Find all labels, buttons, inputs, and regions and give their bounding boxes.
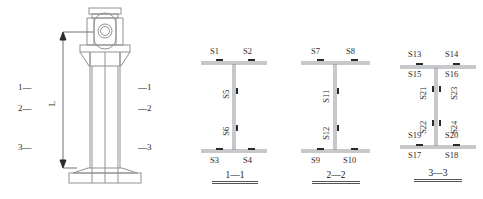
section-2-2-caption: 2—2 <box>312 170 360 184</box>
section-2-2: S7 S8 S9 S10 S11 S12 2—2 <box>298 0 383 199</box>
sensor-label-s7: S7 <box>311 47 320 56</box>
tick-label: 3 <box>147 142 152 152</box>
tick-label: 1 <box>147 82 152 92</box>
figure-canvas: L 1— 2— 3— —1 —2 —3 S1 S2 S3 <box>0 0 483 199</box>
gauge-mark-s13-s15 <box>416 63 423 65</box>
sensor-label-s19: S19 <box>408 131 421 140</box>
gauge-mark-s24 <box>439 120 441 126</box>
elevation-tick-right-2: —2 <box>138 103 152 113</box>
pier-shaft <box>90 52 120 168</box>
caption-rule <box>414 179 462 182</box>
gauge-mark-s10 <box>351 148 358 150</box>
sensor-label-s10: S10 <box>343 156 356 165</box>
sensor-label-s14: S14 <box>445 50 458 59</box>
caption-text: 3—3 <box>429 168 448 178</box>
gauge-mark-s22 <box>432 120 434 126</box>
gauge-mark-s14-s16 <box>453 63 460 65</box>
section-3-3-caption: 3—3 <box>414 168 462 182</box>
section-1-1: S1 S2 S3 S4 S5 S6 1—1 <box>198 0 278 199</box>
tick-dash: — <box>23 82 32 92</box>
gauge-mark-s7 <box>317 59 324 61</box>
sensor-label-s13: S13 <box>408 50 421 59</box>
section-3-3: S13 S14 S15 S16 S21 S22 S23 S24 S19 S20 … <box>396 0 483 199</box>
sensor-label-s12: S12 <box>322 127 331 140</box>
elevation-tick-left-2: 2— <box>18 103 32 113</box>
tick-dash: — <box>23 103 32 113</box>
tick-label: 2 <box>147 103 152 113</box>
tick-dash: — <box>138 142 147 152</box>
elevation-tick-right-1: —1 <box>138 82 152 92</box>
sensor-label-s5: S5 <box>222 90 231 99</box>
sensor-label-s20: S20 <box>445 131 458 140</box>
elevation-tick-left-1: 1— <box>18 82 32 92</box>
gauge-mark-s4 <box>248 148 255 150</box>
sensor-label-s21: S21 <box>419 87 428 100</box>
sensor-label-s15: S15 <box>408 70 421 79</box>
sensor-label-s6: S6 <box>222 127 231 136</box>
top-bearing-assembly <box>87 8 123 49</box>
caption-rule <box>312 181 360 184</box>
sensor-label-s17: S17 <box>408 151 421 160</box>
gauge-mark-s11 <box>337 88 339 94</box>
sensor-label-s4: S4 <box>243 156 252 165</box>
gauge-mark-s5 <box>236 88 238 94</box>
tick-dash: — <box>138 103 147 113</box>
sensor-label-s18: S18 <box>445 151 458 160</box>
sensor-label-s9: S9 <box>311 156 320 165</box>
sensor-label-s23: S23 <box>450 87 459 100</box>
elevation-tick-left-3: 3— <box>18 142 32 152</box>
tick-dash: — <box>138 82 147 92</box>
dimension-label-L: L <box>48 101 57 107</box>
elevation-tick-right-3: —3 <box>138 142 152 152</box>
gauge-mark-s20-s18 <box>453 144 460 146</box>
gauge-mark-s9 <box>317 148 324 150</box>
pier-footing <box>69 168 141 183</box>
caption-text: 2—2 <box>327 170 346 180</box>
sensor-label-s11: S11 <box>322 90 331 103</box>
gauge-mark-s23 <box>439 86 441 92</box>
sensor-label-s3: S3 <box>210 156 219 165</box>
caption-text: 1—1 <box>226 170 245 180</box>
sensor-label-s16: S16 <box>445 70 458 79</box>
sensor-label-s1: S1 <box>210 47 219 56</box>
tick-dash: — <box>23 142 32 152</box>
section-1-1-caption: 1—1 <box>212 170 258 184</box>
gauge-mark-s2 <box>248 59 255 61</box>
gauge-mark-s8 <box>351 59 358 61</box>
gauge-mark-s19-s17 <box>416 144 423 146</box>
gauge-mark-s6 <box>236 125 238 131</box>
gauge-mark-s21 <box>432 86 434 92</box>
pier-elevation-drawing <box>0 0 180 199</box>
gauge-mark-s12 <box>337 125 339 131</box>
sensor-label-s2: S2 <box>243 47 252 56</box>
sensor-label-s8: S8 <box>346 47 355 56</box>
gauge-mark-s1 <box>216 59 223 61</box>
caption-rule <box>212 181 258 184</box>
gauge-mark-s3 <box>216 148 223 150</box>
